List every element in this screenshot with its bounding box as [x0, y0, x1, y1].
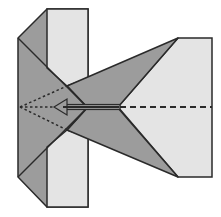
- top-flap: [47, 9, 88, 86]
- diagram-canvas: [0, 0, 221, 217]
- origami-diagram: [0, 0, 221, 217]
